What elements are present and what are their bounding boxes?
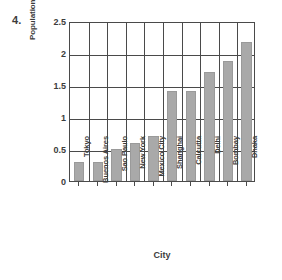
x-axis-tick-labels: TokyoBuenos AiresSao PauloNew YorkMexico… xyxy=(69,188,255,240)
x-axis-tick-mark xyxy=(134,182,135,186)
x-axis-tick-label: Shanghai xyxy=(175,136,185,188)
x-axis-tick-mark xyxy=(97,182,98,186)
x-axis-tick-mark xyxy=(171,182,172,186)
y-axis-tick-label: 0.5 xyxy=(44,146,66,155)
x-axis-tick-label: Calcutta xyxy=(194,136,204,188)
y-axis-tick-label: 0 xyxy=(44,178,66,187)
y-axis-tick-label: 1 xyxy=(44,114,66,123)
y-axis-tick-label: 1.5 xyxy=(44,82,66,91)
y-axis-title: Population Growth in Millions xyxy=(28,0,40,40)
x-axis-tick-label: Tokyo xyxy=(82,136,92,188)
bar-chart-figure: 4. Population Growth in Millions 00.511.… xyxy=(0,0,282,280)
x-axis-tick-label: Sao Paulo xyxy=(120,136,130,188)
x-axis-tick-mark xyxy=(153,182,154,186)
x-axis-tick-label: Delhi xyxy=(213,136,223,188)
x-axis-tick-label: New York xyxy=(138,136,148,188)
x-axis-tick-label: Buenos Aires xyxy=(101,136,111,188)
x-axis-title: City xyxy=(69,250,255,260)
x-axis-tick-mark xyxy=(209,182,210,186)
x-axis-tick-mark xyxy=(246,182,247,186)
question-number: 4. xyxy=(12,14,22,26)
x-axis-tick-mark xyxy=(190,182,191,186)
x-axis-tick-mark xyxy=(116,182,117,186)
y-axis-tick-labels: 00.511.522.5 xyxy=(41,22,66,182)
x-axis-tick-label: Mexico City xyxy=(157,136,167,188)
x-axis-tick-label: Dhaka xyxy=(250,136,260,188)
x-axis-tick-mark xyxy=(227,182,228,186)
x-axis-tick-mark xyxy=(78,182,79,186)
x-axis-tick-label: Bombay xyxy=(231,136,241,188)
y-axis-tick-label: 2 xyxy=(44,50,66,59)
y-axis-tick-label: 2.5 xyxy=(44,18,66,27)
